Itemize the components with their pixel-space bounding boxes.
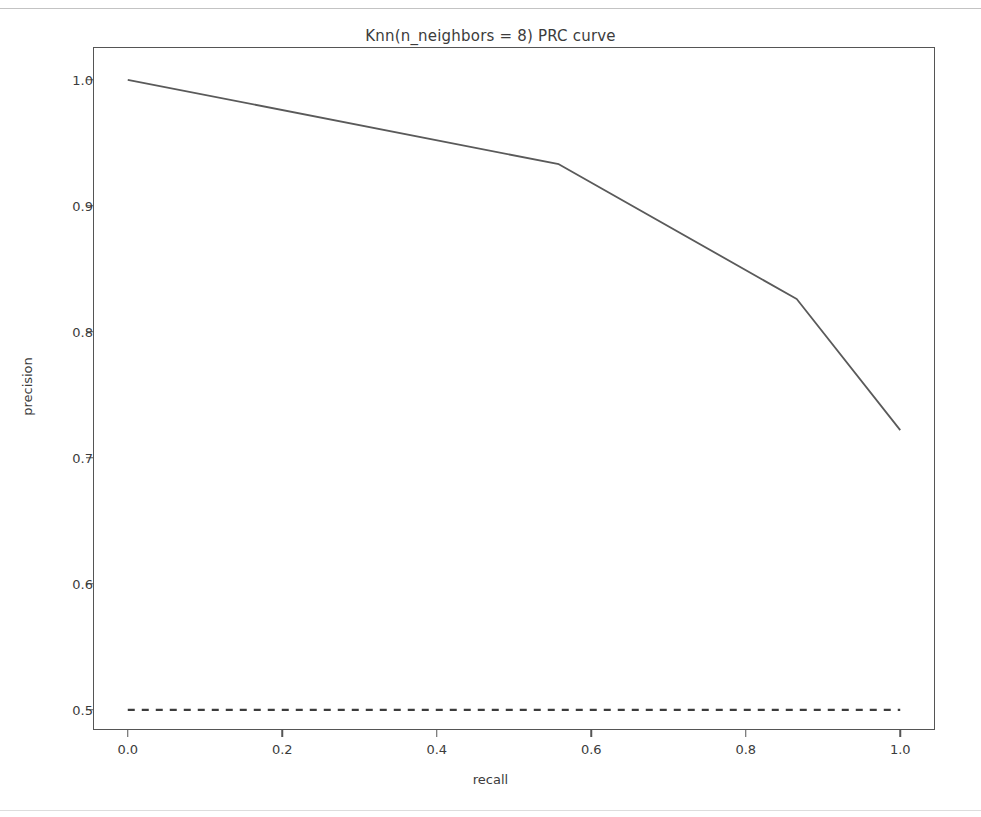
x-axis-ticks: 0.00.20.40.60.81.0 bbox=[0, 0, 981, 817]
x-tick-mark bbox=[436, 730, 438, 737]
x-tick-label: 0.6 bbox=[561, 742, 621, 757]
prc-curve-figure: Knn(n_neighbors = 8) PRC curve 0.50.60.7… bbox=[0, 0, 981, 817]
x-tick-mark bbox=[745, 730, 747, 737]
x-tick-label: 0.0 bbox=[98, 742, 158, 757]
x-tick-label: 0.4 bbox=[407, 742, 467, 757]
x-tick-label: 0.8 bbox=[716, 742, 776, 757]
x-tick-mark bbox=[590, 730, 592, 737]
x-tick-mark bbox=[899, 730, 901, 737]
x-tick-mark bbox=[282, 730, 284, 737]
x-tick-mark bbox=[127, 730, 129, 737]
x-axis-label: recall bbox=[0, 772, 981, 787]
x-tick-label: 1.0 bbox=[870, 742, 930, 757]
x-tick-label: 0.2 bbox=[252, 742, 312, 757]
